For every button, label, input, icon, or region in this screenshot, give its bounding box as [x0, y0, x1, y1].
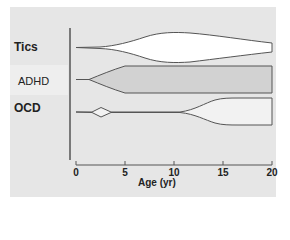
x-tick-label-15: 15: [217, 167, 229, 178]
x-tick-label-20: 20: [266, 167, 278, 178]
series-tics-shape: [76, 32, 272, 62]
x-tick-label-0: 0: [73, 167, 79, 178]
series-ocd-shape: [76, 98, 272, 125]
x-axis-label: Age (yr): [138, 177, 176, 188]
x-tick-label-5: 5: [122, 167, 128, 178]
series-adhd-shape: [76, 66, 272, 93]
